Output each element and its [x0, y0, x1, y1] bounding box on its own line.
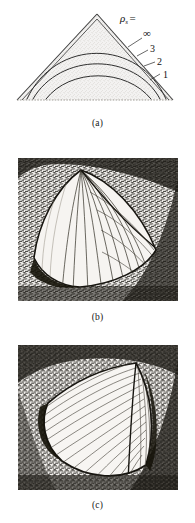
panel-a-diagram: ρs= ∞ 3 2 1: [0, 0, 195, 110]
rho-subscript: s: [125, 18, 128, 26]
caption-panel-c: (c): [0, 500, 195, 510]
photo-b-vignette-bottom: [18, 286, 178, 301]
contour-label-2: 2: [157, 56, 162, 67]
leader-2: [144, 62, 155, 66]
leader-3: [137, 50, 148, 56]
figure-container: ρs= ∞ 3 2 1 (a): [0, 0, 195, 523]
panel-c-photograph: [18, 345, 178, 490]
parameter-label: ρs=: [119, 12, 136, 26]
caption-panel-a: (a): [0, 118, 195, 128]
caption-panel-b: (b): [0, 312, 195, 322]
contour-label-infinity: ∞: [143, 27, 151, 39]
leader-infinity: [128, 38, 142, 47]
panel-b-photograph: [18, 158, 178, 301]
contour-label-1: 1: [163, 69, 168, 80]
equals-sign: =: [130, 12, 136, 24]
photo-c-vignette-bottom: [18, 475, 178, 490]
contour-label-3: 3: [150, 43, 155, 54]
